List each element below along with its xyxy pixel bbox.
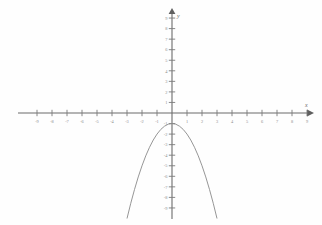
y-tick-label: 8 <box>165 26 168 31</box>
y-tick-label: 1 <box>165 100 167 105</box>
y-tick-label: -3 <box>164 142 168 147</box>
graph-canvas: x y -9-8-7-6-5-4-3-2-1123456789 -9-8-7-6… <box>0 0 322 225</box>
x-tick-label: 5 <box>246 119 249 124</box>
x-tick-label: 7 <box>276 119 279 124</box>
x-tick-label: -2 <box>140 119 144 124</box>
y-tick-label: 9 <box>165 16 168 21</box>
x-axis-label: x <box>304 102 308 108</box>
x-tick-label: 2 <box>201 119 203 124</box>
x-tick-label: -6 <box>80 119 84 124</box>
coordinate-plane-svg: x y -9-8-7-6-5-4-3-2-1123456789 -9-8-7-6… <box>0 0 322 225</box>
x-tick-label: 1 <box>186 119 188 124</box>
y-tick-label: 7 <box>165 37 168 42</box>
y-tick-label: -2 <box>164 132 168 137</box>
x-tick-label: -9 <box>35 119 39 124</box>
x-tick-label: -1 <box>155 119 159 124</box>
y-axis-label: y <box>176 13 180 19</box>
x-tick-label: -3 <box>125 119 129 124</box>
x-tick-label: -4 <box>110 119 114 124</box>
x-tick-label: 3 <box>216 119 219 124</box>
y-axis-arrow-icon <box>169 8 176 14</box>
x-tick-label: 8 <box>291 119 294 124</box>
x-tick-label: -5 <box>95 119 99 124</box>
y-tick-label: 2 <box>165 90 167 95</box>
y-tick-label: -6 <box>164 174 168 179</box>
x-tick-label: -7 <box>65 119 69 124</box>
y-tick-label: -4 <box>164 153 168 158</box>
y-tick-label: -9 <box>164 206 168 211</box>
y-tick-label: -7 <box>164 185 168 190</box>
x-axis-arrow-icon <box>307 110 314 117</box>
y-tick-label: 5 <box>165 58 168 63</box>
x-tick-label: -8 <box>50 119 54 124</box>
x-tick-label: 4 <box>231 119 234 124</box>
y-tick-label: 4 <box>165 69 168 74</box>
y-tick-label: 3 <box>165 79 168 84</box>
y-tick-label: -5 <box>164 163 168 168</box>
x-tick-label: 9 <box>306 119 309 124</box>
y-tick-label: 6 <box>165 47 168 52</box>
x-tick-label: 6 <box>261 119 264 124</box>
y-tick-label: -8 <box>164 195 168 200</box>
